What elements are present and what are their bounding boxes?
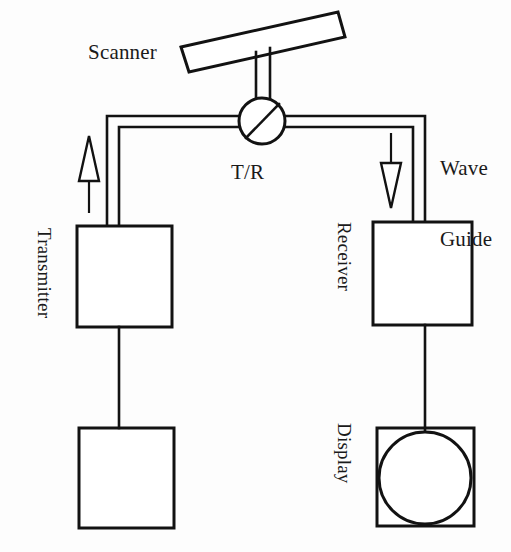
label-display: Display	[334, 423, 355, 484]
block-pulse-generator	[79, 428, 174, 528]
receive-arrow-down-icon	[381, 133, 401, 208]
transmit-arrow-up-icon	[79, 136, 99, 213]
block-transmitter	[77, 226, 172, 327]
label-wave-guide-line1: Wave	[440, 157, 492, 181]
label-receiver: Receiver	[334, 222, 355, 291]
label-scanner: Scanner	[88, 41, 157, 65]
diagram-canvas	[0, 0, 511, 552]
label-tr-switch: T/R	[231, 161, 264, 185]
scanner-plate	[181, 12, 345, 72]
label-wave-guide-line2: Guide	[440, 228, 492, 252]
radar-block-diagram: Scanner T/R Wave Guide Transmitter Pulse…	[0, 0, 511, 552]
label-pulse-generator: Pulse generator	[0, 421, 42, 495]
label-wave-guide: Wave Guide	[440, 110, 492, 298]
label-transmitter: Transmitter	[34, 228, 55, 318]
tr-switch-symbol	[239, 98, 285, 144]
block-display	[377, 428, 474, 526]
